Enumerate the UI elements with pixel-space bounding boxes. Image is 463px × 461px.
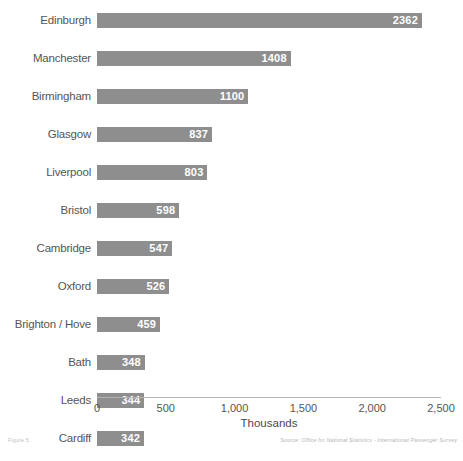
bar: 598 [97, 203, 179, 218]
bar-track: 459 [97, 317, 160, 332]
bar-value-label: 2362 [393, 13, 418, 28]
bar: 803 [97, 165, 207, 180]
bar-track: 547 [97, 241, 172, 256]
bar: 547 [97, 241, 172, 256]
bar: 526 [97, 279, 169, 294]
bar-value-label: 547 [149, 241, 168, 256]
bar: 459 [97, 317, 160, 332]
bar-value-label: 459 [137, 317, 156, 332]
bar-track: 342 [97, 431, 144, 446]
bar-track: 837 [97, 127, 212, 142]
figure-caption: Figure 5 [8, 437, 29, 443]
bar-track: 1100 [97, 89, 248, 104]
bar-value-label: 348 [122, 355, 141, 370]
plot-area: Edinburgh2362Manchester1408Birmingham110… [0, 13, 463, 398]
category-label: Bristol [0, 203, 91, 218]
bar-value-label: 837 [189, 127, 208, 142]
category-label: Glasgow [0, 127, 91, 142]
bar-value-label: 803 [185, 165, 204, 180]
x-tick-label: 0 [94, 401, 100, 415]
bar: 837 [97, 127, 212, 142]
bar-row: Bristol598 [0, 203, 463, 222]
bar-track: 803 [97, 165, 207, 180]
bar-row: Oxford526 [0, 279, 463, 298]
source-note: Source: Office for National Statistics -… [280, 437, 457, 443]
bar-track: 348 [97, 355, 145, 370]
bar-value-label: 598 [156, 203, 175, 218]
bar-row: Birmingham1100 [0, 89, 463, 108]
bar-row: Cambridge547 [0, 241, 463, 260]
x-axis-ticks: 05001,0001,5002,0002,500 [0, 401, 463, 417]
category-label: Oxford [0, 279, 91, 294]
x-axis-title: Thousands [97, 417, 441, 429]
bar: 1408 [97, 51, 291, 66]
category-label: Manchester [0, 51, 91, 66]
x-tick-label: 2,500 [427, 401, 455, 415]
bar-row: Manchester1408 [0, 51, 463, 70]
bar: 1100 [97, 89, 248, 104]
x-tick-label: 2,000 [358, 401, 386, 415]
category-label: Birmingham [0, 89, 91, 104]
bar: 348 [97, 355, 145, 370]
x-tick-label: 1,000 [221, 401, 249, 415]
bar: 342 [97, 431, 144, 446]
category-label: Brighton / Hove [0, 317, 91, 332]
category-label: Edinburgh [0, 13, 91, 28]
bar-track: 598 [97, 203, 179, 218]
bar-value-label: 526 [146, 279, 165, 294]
bar-track: 1408 [97, 51, 291, 66]
bar-row: Liverpool803 [0, 165, 463, 184]
bar-track: 2362 [97, 13, 422, 28]
x-tick-label: 1,500 [290, 401, 318, 415]
category-label: Bath [0, 355, 91, 370]
bar-value-label: 1408 [261, 51, 286, 66]
bar-value-label: 342 [121, 431, 140, 446]
bar-row: Brighton / Hove459 [0, 317, 463, 336]
bar-row: Glasgow837 [0, 127, 463, 146]
category-label: Cambridge [0, 241, 91, 256]
x-axis-line [97, 397, 441, 398]
x-tick-label: 500 [157, 401, 175, 415]
bar-track: 526 [97, 279, 169, 294]
bar-chart-figure: Edinburgh2362Manchester1408Birmingham110… [0, 0, 463, 461]
bar-value-label: 1100 [220, 89, 245, 104]
bar-row: Bath348 [0, 355, 463, 374]
bar: 2362 [97, 13, 422, 28]
bar-row: Edinburgh2362 [0, 13, 463, 32]
category-label: Liverpool [0, 165, 91, 180]
